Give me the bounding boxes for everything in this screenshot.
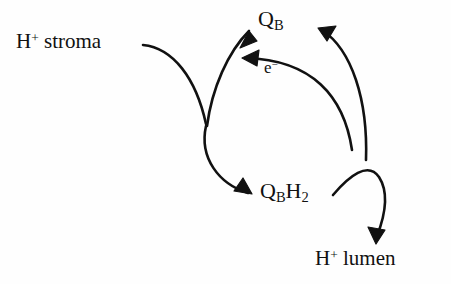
arrow-electron-arc	[246, 58, 352, 150]
label-qbh2-subscript-b: B	[276, 189, 286, 205]
label-qbh2: QBH2	[260, 180, 309, 202]
label-h-stroma-species: H	[16, 29, 31, 53]
qb-cycle-diagram: H+ stroma QB e− QBH2 H+ lumen	[0, 0, 451, 284]
arrowhead-to-lumen	[368, 227, 385, 244]
arrow-qbh2-to-lumen	[333, 170, 385, 236]
arrow-stroma-to-junction	[143, 45, 206, 124]
label-h-lumen-compartment: lumen	[343, 246, 396, 270]
label-h-lumen-species: H	[315, 246, 330, 270]
label-h-stroma-compartment: stroma	[44, 29, 101, 53]
label-electron: e−	[264, 59, 278, 76]
label-qb-base: Q	[258, 6, 274, 31]
label-h-stroma-charge: +	[31, 30, 39, 45]
label-electron-base: e	[264, 58, 272, 77]
label-qb: QB	[258, 8, 284, 30]
arrowhead-to-qbh2	[234, 178, 252, 194]
arrowhead-electron	[242, 50, 259, 66]
label-qbh2-q: Q	[260, 178, 276, 203]
label-qb-subscript: B	[274, 17, 284, 33]
label-h-lumen: H+ lumen	[315, 248, 396, 269]
label-qbh2-h: H	[286, 178, 302, 203]
label-qbh2-subscript-2: 2	[301, 189, 308, 205]
label-electron-charge: −	[272, 58, 278, 70]
arrow-right-arc-to-qb	[322, 30, 366, 160]
label-h-lumen-charge: +	[330, 247, 338, 262]
label-h-stroma: H+ stroma	[16, 31, 101, 52]
